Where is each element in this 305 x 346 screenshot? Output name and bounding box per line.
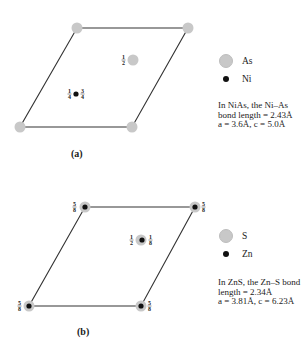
frac-five-eighths: 58: [202, 201, 206, 213]
frac-five-eighths: 58: [148, 300, 152, 312]
as-atom: [127, 122, 138, 133]
large-atom-icon: [219, 54, 233, 68]
frac-half-b: 12: [130, 234, 134, 246]
legend-item-zn: Zn: [219, 249, 253, 259]
svg-text:8: 8: [149, 240, 152, 246]
zns-note: In ZnS, the Zn–S bond length = 2.34Å a =…: [218, 278, 300, 307]
large-atom-icon: [219, 229, 233, 243]
legend-item-ni: Ni: [219, 74, 252, 84]
svg-text:8: 8: [73, 207, 76, 213]
svg-text:4: 4: [81, 94, 84, 100]
svg-text:8: 8: [202, 207, 205, 213]
s-zn-pair: [24, 301, 35, 312]
legend-item-as: As: [219, 54, 253, 68]
frac-five-eighths: 58: [73, 201, 77, 213]
frac-five-eighths: 58: [18, 300, 22, 312]
s-zn-pair-center: [136, 235, 147, 246]
as-atom: [72, 23, 83, 34]
svg-text:8: 8: [18, 306, 21, 312]
frac-one-eighth: 18: [149, 234, 153, 246]
nias-unit-cell: 1 2 1 4 3 4: [15, 23, 194, 133]
panel-label-b: (b): [77, 326, 89, 337]
svg-text:2: 2: [130, 240, 133, 246]
svg-text:4: 4: [68, 94, 71, 100]
legend-item-s: S: [219, 229, 247, 243]
small-atom-icon: [223, 76, 229, 82]
s-zn-pair: [136, 301, 147, 312]
s-zn-pair: [190, 202, 201, 213]
small-atom-icon: [223, 251, 229, 257]
cell-outline-a: [20, 28, 188, 127]
svg-text:8: 8: [148, 306, 151, 312]
as-atom-center: [128, 55, 139, 66]
s-zn-pair: [80, 202, 91, 213]
as-atom: [15, 122, 26, 133]
nias-note: In NiAs, the Ni–As bond length = 2.43Å a…: [218, 101, 293, 130]
zns-unit-cell: 58 58 58 58 12 18: [18, 201, 206, 312]
ni-atom: [73, 91, 78, 96]
as-atom: [183, 23, 194, 34]
cell-outline-b: [29, 207, 195, 306]
svg-text:2: 2: [122, 60, 125, 66]
panel-label-a: (a): [71, 148, 83, 159]
